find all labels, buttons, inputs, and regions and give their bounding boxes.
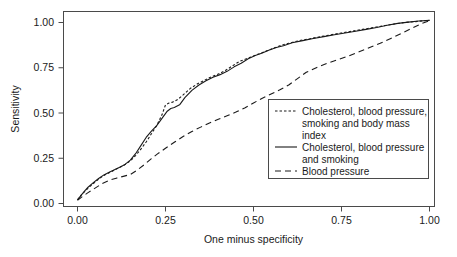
plot-canvas: 0.00 0.25 0.50 0.75 1.00 0.00 0.25 0.50 …	[0, 0, 457, 257]
x-tick-label-3: 0.75	[331, 214, 352, 226]
x-tick-label-1: 0.25	[155, 214, 176, 226]
legend-label-2-line2: and smoking	[302, 154, 359, 165]
x-tick-label-0: 0.00	[67, 214, 88, 226]
y-tick-label-4: 1.00	[34, 16, 55, 28]
y-axis-title: Sensitivity	[9, 85, 21, 133]
y-tick-label-3: 0.75	[34, 61, 55, 73]
y-tick-label-0: 0.00	[34, 197, 55, 209]
legend: Cholesterol, blood pressure, smoking and…	[269, 100, 429, 179]
y-tick-label-1: 0.25	[34, 152, 55, 164]
x-tick-label-2: 0.50	[243, 214, 264, 226]
x-tick-labels: 0.00 0.25 0.50 0.75 1.00	[67, 214, 440, 226]
y-axis-ticks	[59, 23, 64, 204]
legend-label-2-line1: Cholesterol, blood pressure	[302, 142, 425, 153]
legend-label-1-line2: smoking and body mass	[302, 118, 410, 129]
roc-curve-figure: 0.00 0.25 0.50 0.75 1.00 0.00 0.25 0.50 …	[0, 0, 457, 257]
legend-label-1-line1: Cholesterol, blood pressure,	[302, 106, 427, 117]
x-tick-label-4: 1.00	[419, 214, 440, 226]
x-axis-ticks	[78, 207, 430, 212]
y-tick-labels: 0.00 0.25 0.50 0.75 1.00	[34, 16, 55, 209]
x-axis-title: One minus specificity	[204, 233, 304, 245]
y-tick-label-2: 0.50	[34, 107, 55, 119]
legend-label-3-line1: Blood pressure	[302, 166, 370, 177]
legend-label-1-line3: index	[302, 130, 326, 141]
